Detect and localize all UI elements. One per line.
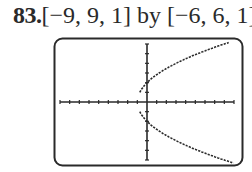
calculator-screen-plot — [0, 0, 252, 172]
